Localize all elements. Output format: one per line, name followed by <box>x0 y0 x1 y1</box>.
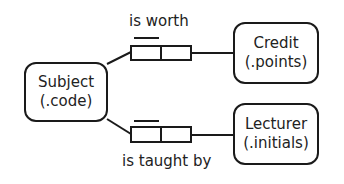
entity-lecturer-key: (.initials) <box>243 134 309 153</box>
entity-subject-name: Subject <box>38 73 94 92</box>
entity-lecturer-name: Lecturer <box>245 115 307 134</box>
entity-lecturer: Lecturer (.initials) <box>233 103 319 165</box>
relationship-label-is-worth: is worth <box>129 12 189 30</box>
relationship-label-is-taught-by: is taught by <box>122 152 211 170</box>
entity-credit-key: (.points) <box>245 53 308 72</box>
entity-credit-name: Credit <box>253 34 298 53</box>
entity-subject-key: (.code) <box>40 92 93 111</box>
entity-credit: Credit (.points) <box>233 22 319 84</box>
entity-subject: Subject (.code) <box>24 62 108 122</box>
